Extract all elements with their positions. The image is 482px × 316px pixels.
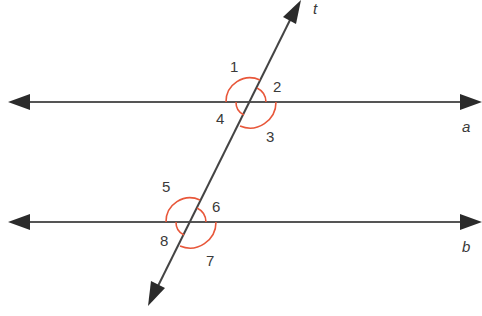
arrowhead-down-icon <box>148 281 165 306</box>
transversal-t <box>148 0 301 306</box>
angle-label-5: 5 <box>162 178 170 195</box>
angle-label-3: 3 <box>266 128 274 145</box>
arrowhead-right-icon <box>460 94 482 110</box>
line-b <box>8 214 482 230</box>
line-label-b: b <box>462 238 470 255</box>
angle-3-arc <box>240 102 276 128</box>
angle-label-6: 6 <box>212 198 220 215</box>
angle-label-2: 2 <box>273 78 281 95</box>
angle-label-8: 8 <box>160 232 168 249</box>
parallel-lines-diagram: 1 2 3 4 5 6 7 8 t a b <box>0 0 482 316</box>
line-label-a: a <box>462 118 470 135</box>
angle-7-arc <box>180 222 216 248</box>
arrowhead-left-icon <box>8 214 30 230</box>
line-a <box>8 94 482 110</box>
angle-label-4: 4 <box>216 110 224 127</box>
angle-2-arc <box>257 88 266 102</box>
angle-label-1: 1 <box>230 58 238 75</box>
angle-8-arc <box>176 222 184 235</box>
arrowhead-left-icon <box>8 94 30 110</box>
line-label-t: t <box>313 0 318 17</box>
angle-6-arc <box>197 208 206 222</box>
angle-label-7: 7 <box>206 252 214 269</box>
arrowhead-right-icon <box>460 214 482 230</box>
arrowhead-up-icon <box>283 0 301 24</box>
